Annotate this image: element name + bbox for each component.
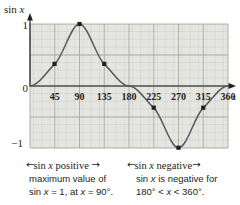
data-point-marker bbox=[77, 22, 81, 26]
x-tick-label-315: 315 bbox=[191, 92, 215, 102]
data-point-marker bbox=[102, 62, 106, 66]
brace-sin-negative: ←sin x negative→ bbox=[127, 158, 200, 171]
note-left-line2-a: sin bbox=[29, 186, 44, 197]
note-left-line1: maximum value of bbox=[29, 172, 106, 185]
brace-negative-text-c: negative bbox=[154, 160, 192, 171]
data-point-marker bbox=[52, 62, 56, 66]
note-right-line1: sin x is negative for bbox=[136, 172, 217, 185]
note-right-line2-c: < 360°. bbox=[171, 186, 204, 197]
brace-sin-positive: ←sin x positive → bbox=[26, 158, 99, 171]
y-tick-label-neg1: −1 bbox=[9, 138, 23, 149]
y-axis-title: sin x bbox=[4, 4, 24, 15]
right-arrow-icon: → bbox=[91, 159, 98, 170]
y-tick-label-1: 1 bbox=[14, 20, 28, 31]
x-tick-label-90: 90 bbox=[68, 92, 92, 102]
x-tick-label-360: 360 bbox=[216, 92, 240, 102]
brace-negative-text-a: sin bbox=[134, 160, 149, 171]
right-arrow-icon: → bbox=[192, 159, 199, 170]
x-tick-label-270: 270 bbox=[167, 92, 191, 102]
x-tick-label-225: 225 bbox=[142, 92, 166, 102]
y-axis-title-variable: x bbox=[20, 3, 25, 15]
data-point-marker bbox=[201, 106, 205, 110]
data-point-marker bbox=[176, 146, 180, 150]
sine-curve-figure: sin x x 1 0 −1 45 90 135 180 225 270 315… bbox=[0, 0, 240, 205]
brace-positive-text-a: sin bbox=[33, 160, 48, 171]
data-point-marker bbox=[152, 106, 156, 110]
x-tick-label-180: 180 bbox=[117, 92, 141, 102]
note-left-line2-c: = 1, at bbox=[49, 186, 81, 197]
x-tick-label-135: 135 bbox=[92, 92, 116, 102]
note-left-line2: sin x = 1, at x = 90°. bbox=[29, 185, 113, 198]
x-axis-arrowhead bbox=[229, 83, 237, 89]
x-tick-label-45: 45 bbox=[43, 92, 67, 102]
y-tick-label-0: 0 bbox=[14, 83, 28, 94]
note-right-line2-a: 180° < bbox=[136, 186, 166, 197]
note-right-line1-c: is negative for bbox=[156, 173, 218, 184]
note-right-line2: 180° < x < 360°. bbox=[136, 185, 204, 198]
note-right-line1-a: sin bbox=[136, 173, 151, 184]
brace-positive-text-c: positive bbox=[53, 160, 89, 171]
note-left-line2-e: = 90°. bbox=[85, 186, 113, 197]
